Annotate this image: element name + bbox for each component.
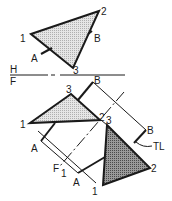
auxiliary-view-diagram: 1 2 3 A B H F 1 3 2 A B — [0, 0, 172, 201]
top-line-a — [41, 48, 52, 54]
aux-line-a — [78, 157, 105, 173]
front-label-2: 2 — [99, 112, 105, 123]
aux-label-3: 3 — [106, 115, 112, 126]
front-label-a: A — [31, 143, 38, 154]
aux-label-a: A — [73, 177, 80, 188]
top-label-1: 1 — [20, 33, 26, 44]
front-line-ab — [41, 123, 55, 141]
aux-label-2: 2 — [151, 163, 157, 174]
top-label-2: 2 — [101, 6, 107, 17]
front-view: 1 3 2 A B — [20, 75, 105, 154]
top-label-3: 3 — [73, 65, 79, 76]
fold2-label-f: F — [53, 163, 59, 174]
auxiliary-view: 3 2 1 A B TL — [73, 115, 165, 197]
fold-line-f1-labels: F 1 — [53, 163, 67, 179]
fold2-label-1: 1 — [61, 168, 67, 179]
fold-label-f: F — [10, 76, 16, 87]
top-view: 1 2 3 A B — [20, 6, 107, 76]
front-view-triangle — [30, 94, 100, 123]
top-label-a: A — [31, 53, 38, 64]
aux-label-b: B — [147, 125, 154, 136]
tl-leader — [136, 142, 152, 147]
fold-label-h: H — [10, 64, 17, 75]
aux-line-b — [134, 130, 146, 143]
top-view-triangle — [31, 11, 99, 68]
true-length-label: TL — [153, 141, 165, 152]
front-line-b — [78, 82, 93, 100]
front-label-b: B — [94, 75, 101, 86]
top-label-b: B — [94, 33, 101, 44]
front-label-1: 1 — [20, 119, 26, 130]
aux-label-1: 1 — [92, 186, 98, 197]
front-label-3: 3 — [66, 84, 72, 95]
